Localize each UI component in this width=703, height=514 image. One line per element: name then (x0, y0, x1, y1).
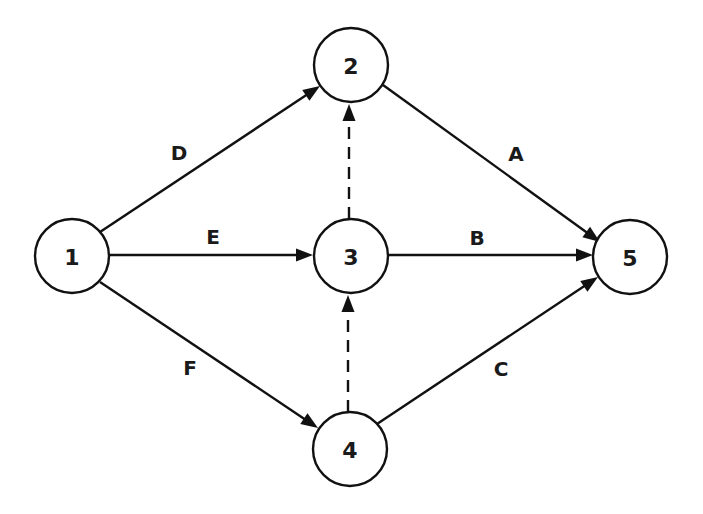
arrowhead-icon (576, 249, 593, 262)
edge-label-c: C (494, 357, 509, 381)
arrowhead-icon (296, 249, 313, 262)
arrowhead-icon (302, 86, 320, 101)
activity-line (100, 94, 308, 232)
activity-line (383, 85, 588, 233)
arrowhead-icon (300, 413, 318, 428)
edge-label-a: A (508, 142, 524, 166)
node-label: 1 (64, 245, 79, 270)
arrowhead-icon (580, 277, 598, 292)
node-5: 5 (593, 220, 667, 294)
edge-1-to-4 (100, 282, 318, 428)
arrowhead-icon (342, 295, 355, 312)
edge-label-e: E (206, 225, 220, 249)
node-2: 2 (314, 28, 388, 102)
node-label: 4 (342, 438, 357, 463)
node-label: 5 (622, 246, 637, 271)
edge-label-b: B (469, 226, 484, 250)
activity-line (377, 285, 586, 424)
edge-label-d: D (171, 141, 188, 165)
edge-label-f: F (183, 356, 197, 380)
node-label: 3 (343, 245, 358, 270)
node-3: 3 (314, 219, 388, 293)
node-1: 1 (35, 219, 109, 293)
edge-1-to-3 (109, 249, 313, 262)
edge-3-to-2 (343, 104, 356, 219)
edge-2-to-5 (383, 85, 600, 242)
node-4: 4 (313, 412, 387, 486)
node-label: 2 (343, 54, 358, 79)
edge-4-to-5 (377, 277, 598, 424)
nodes-layer: 12345 (35, 28, 667, 486)
edge-3-to-5 (388, 249, 593, 262)
activity-line (100, 282, 306, 420)
edge-4-to-3 (342, 295, 355, 412)
network-diagram: 12345 DEFABC (0, 0, 703, 514)
edge-1-to-2 (100, 86, 320, 232)
arrowhead-icon (343, 104, 356, 121)
